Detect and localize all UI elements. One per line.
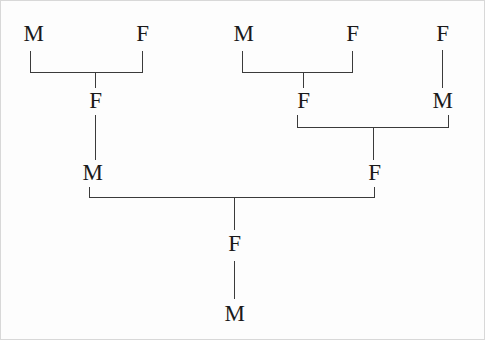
connector-sibship-bar-1 <box>30 72 143 73</box>
person-node-g3-m1: M <box>76 161 110 184</box>
connector-g1-f3-to-g2-m1 <box>442 50 443 88</box>
person-node-g5-m1: M <box>218 302 252 325</box>
person-node-g4-f1: F <box>218 232 252 255</box>
person-node-g1-f1: F <box>126 22 160 45</box>
person-node-g2-f2: F <box>287 89 321 112</box>
person-node-g1-m1: M <box>17 22 51 45</box>
connector-g2-f1-to-g3-m1 <box>95 115 96 160</box>
person-node-g1-f2: F <box>336 22 370 45</box>
person-node-g1-m2: M <box>227 22 261 45</box>
pedigree-diagram: M F M F F F F M M F F M <box>0 0 485 340</box>
connector-child-drop-4 <box>234 197 235 230</box>
connector-child-drop-1 <box>95 72 96 88</box>
person-node-g3-f1: F <box>358 161 392 184</box>
connector-g1-f2-drop <box>352 51 353 73</box>
connector-g1-m1-drop <box>30 51 31 73</box>
person-node-g2-f1: F <box>79 89 113 112</box>
connector-g1-m2-drop <box>242 51 243 73</box>
connector-sibship-bar-4 <box>89 197 375 198</box>
person-node-g1-f3: F <box>426 22 460 45</box>
connector-child-drop-3 <box>373 127 374 160</box>
connector-child-drop-2 <box>303 72 304 88</box>
connector-sibship-bar-2 <box>242 72 353 73</box>
connector-g4-f1-to-g5-m1 <box>234 261 235 299</box>
person-node-g2-m1: M <box>426 89 460 112</box>
connector-g1-f1-drop <box>142 51 143 73</box>
